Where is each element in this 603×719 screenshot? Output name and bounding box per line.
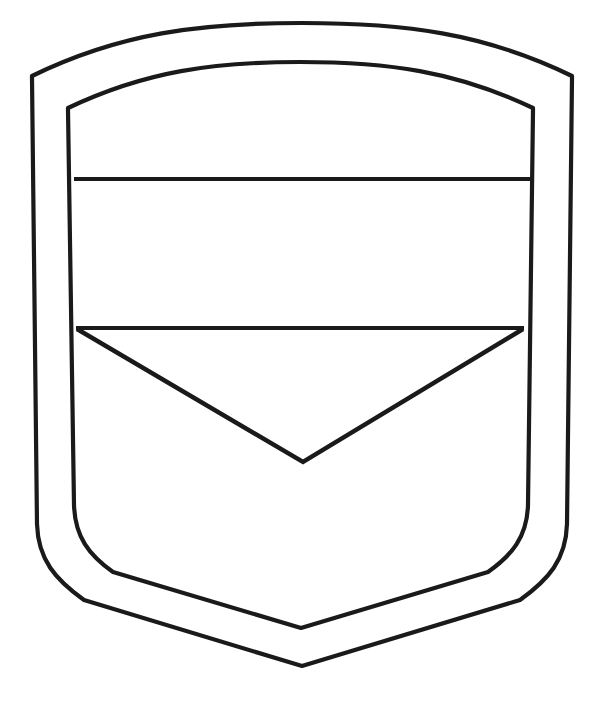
drawing-canvas bbox=[0, 0, 603, 719]
canvas-background bbox=[0, 0, 603, 719]
shield-emblem-illustration bbox=[0, 0, 603, 719]
